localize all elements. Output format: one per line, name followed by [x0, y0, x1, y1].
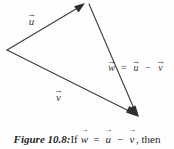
equation-u-letter: u	[133, 62, 138, 73]
vector-equation-label: → w = → u − → v	[107, 59, 165, 73]
vector-u-accent-stack: → u	[27, 12, 36, 27]
equation-w-stack: → w	[107, 59, 116, 73]
equation-minus-sign: −	[143, 63, 153, 73]
caption-v-stack: → v	[128, 128, 136, 146]
figure-container: → u → v → w = → u − → v Figure 10.8:If →…	[0, 0, 174, 149]
vector-v-accent-stack: → v	[54, 88, 63, 103]
equation-v-stack: → v	[156, 59, 165, 73]
vector-u-group	[7, 3, 85, 50]
caption-w-letter: w	[81, 133, 88, 145]
vector-u-letter: u	[29, 15, 35, 27]
vector-u-shaft	[7, 6, 81, 50]
caption-u-stack: → u	[104, 128, 112, 146]
vector-label-v: → v	[54, 88, 63, 103]
vector-v-letter: v	[56, 91, 61, 103]
caption-v-letter: v	[130, 133, 135, 145]
caption-minus-sign: −	[115, 132, 125, 146]
caption-u-letter: u	[105, 133, 111, 145]
equation-w-letter: w	[108, 62, 115, 73]
equation-equals-sign: =	[119, 63, 129, 73]
figure-caption: Figure 10.8:If → w = → u − → v , then	[0, 128, 174, 146]
equation-u-stack: → u	[131, 59, 140, 73]
figure-number: Figure 10.8:	[14, 133, 71, 145]
vector-label-u: → u	[27, 12, 36, 27]
equation-v-letter: v	[158, 62, 163, 73]
caption-word-if: If	[70, 133, 77, 145]
vector-u-arrowhead	[74, 3, 85, 13]
vector-arrow-accent-icon: →	[128, 128, 136, 132]
vector-arrow-accent-icon: →	[81, 128, 89, 132]
caption-w-stack: → w	[81, 128, 89, 146]
caption-word-then: , then	[136, 133, 160, 145]
caption-equals-sign: =	[91, 132, 101, 146]
vector-arrow-accent-icon: →	[104, 128, 112, 132]
